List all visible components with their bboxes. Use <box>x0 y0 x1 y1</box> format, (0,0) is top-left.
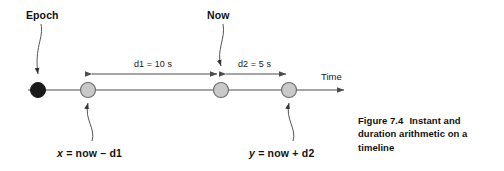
y-formula-pointer-arrow <box>288 103 294 141</box>
figure-container: Epoch Now d1 = 10 s d2 = 5 s Time x = no… <box>0 0 504 171</box>
instant-y-marker <box>282 83 297 98</box>
y-pointer-path <box>288 103 294 141</box>
duration-d1-label: d1 = 10 s <box>134 60 172 69</box>
instant-now-marker <box>214 83 229 98</box>
epoch-pointer-path <box>37 24 42 74</box>
y-formula-label: y = now + d2 <box>249 148 314 159</box>
now-label: Now <box>207 10 229 21</box>
now-pointer-path <box>220 24 224 66</box>
y-formula-expression: = now + d2 <box>255 147 314 159</box>
x-formula-expression: = now – d1 <box>63 147 122 159</box>
x-formula-pointer-arrow <box>87 103 93 141</box>
epoch-marker <box>31 83 46 98</box>
x-formula-label: x = now – d1 <box>57 148 122 159</box>
x-pointer-path <box>87 103 93 141</box>
instant-x-marker <box>81 83 96 98</box>
duration-d2-label: d2 = 5 s <box>238 60 271 69</box>
figure-caption: Figure 7.4Instant and duration arithmeti… <box>358 114 496 154</box>
epoch-pointer-arrow <box>37 24 42 74</box>
time-axis-label: Time <box>321 72 342 82</box>
now-pointer-arrow <box>220 24 224 66</box>
epoch-label: Epoch <box>26 10 59 21</box>
figure-caption-number: Figure 7.4 <box>358 115 403 126</box>
